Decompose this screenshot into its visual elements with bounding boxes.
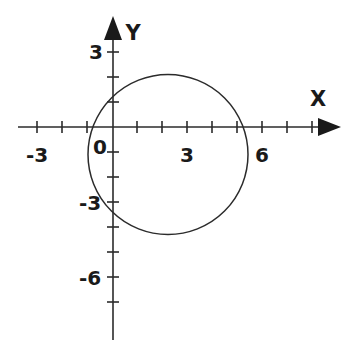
coordinate-plane-svg: -3 0 3 6 3 -3 -6 X Y	[0, 0, 344, 346]
y-tick-label-neg3: -3	[79, 191, 101, 215]
y-axis-group	[104, 16, 122, 340]
y-axis-arrow-icon	[104, 16, 122, 40]
x-axis-group	[18, 118, 341, 136]
x-axis-arrow-icon	[318, 118, 341, 136]
circle-curve	[88, 75, 248, 235]
x-tick-label-3: 3	[180, 143, 194, 167]
y-tick-label-3: 3	[89, 40, 103, 64]
origin-label: 0	[93, 135, 107, 159]
y-axis-name-label: Y	[124, 21, 141, 45]
x-axis-name-label: X	[310, 87, 326, 111]
x-tick-label-6: 6	[255, 143, 269, 167]
x-tick-label-neg3: -3	[26, 143, 48, 167]
y-tick-label-neg6: -6	[79, 266, 101, 290]
graph-figure: -3 0 3 6 3 -3 -6 X Y	[0, 0, 344, 346]
